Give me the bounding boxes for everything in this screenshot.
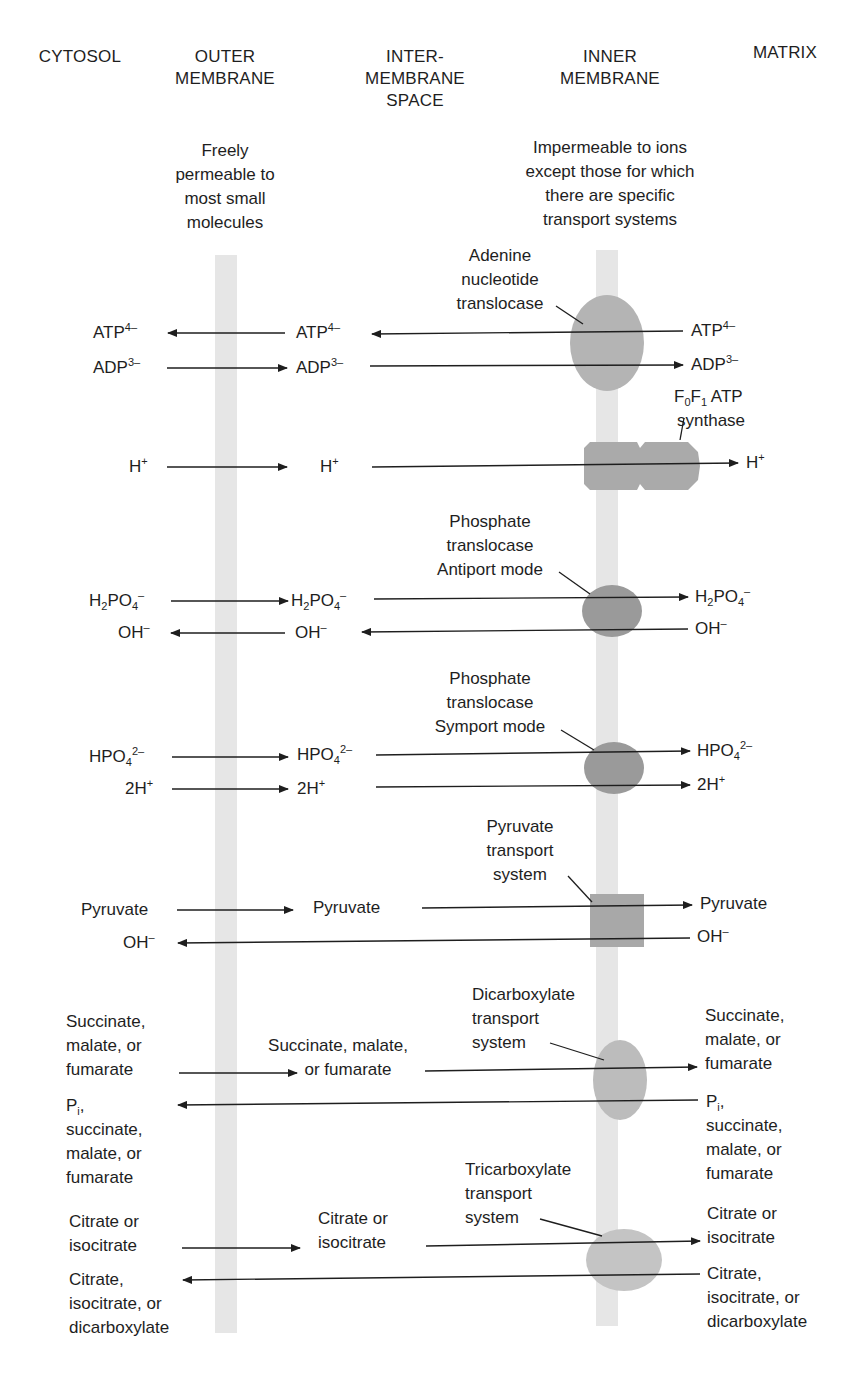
- note-outer-line2: permeable to: [140, 163, 310, 187]
- header-outer-line1: OUTER: [160, 46, 290, 68]
- note-outer-line1: Freely: [140, 139, 310, 163]
- sub-4: 4: [334, 754, 340, 766]
- h-base: H: [746, 453, 758, 472]
- succinate-matrix: Succinate, malate, or fumarate: [705, 1004, 784, 1076]
- two-h-charge: +: [147, 777, 153, 789]
- hpo4-cytosol: HPO42–: [89, 746, 144, 768]
- oh-pyr-matrix: OH–: [697, 926, 729, 948]
- succ-right-line2: malate, or: [705, 1028, 784, 1052]
- h-ims: H+: [320, 456, 339, 478]
- pyruvate-tr-line3: system: [465, 863, 575, 887]
- pi-right-line3: malate, or: [706, 1138, 783, 1162]
- hpo4-ims: HPO42–: [297, 744, 352, 766]
- pi-tail: ,: [80, 1096, 85, 1115]
- atp-base: ATP: [296, 323, 328, 342]
- citrate-ims: Citrate or isocitrate: [318, 1207, 388, 1255]
- oh-base: OH: [695, 619, 721, 638]
- oh-charge: –: [723, 925, 729, 937]
- h2po4-ims: H2PO4–: [291, 590, 346, 612]
- citrate-right-line2: isocitrate: [707, 1226, 777, 1250]
- citrate-out-matrix: Citrate, isocitrate, or dicarboxylate: [707, 1262, 807, 1334]
- pyruvate-cytosol: Pyruvate: [81, 899, 148, 921]
- header-matrix: MATRIX: [730, 42, 840, 64]
- arrow-hpo4-ims-to-matrix: [376, 751, 690, 755]
- atp-base: ATP: [93, 323, 125, 342]
- label-adenine-translocase: Adenine nucleotide translocase: [430, 244, 570, 316]
- po-part: PO: [107, 591, 132, 610]
- header-ims-line2: MEMBRANE: [345, 68, 485, 90]
- tricarb-line2: transport: [465, 1182, 605, 1206]
- atp-synthase-line1: F0F1 ATP: [674, 385, 784, 409]
- adp-ims: ADP3–: [296, 357, 343, 379]
- note-outer-line4: molecules: [140, 211, 310, 235]
- adp-charge: 3–: [726, 353, 738, 365]
- note-inner-line4: transport systems: [490, 208, 730, 232]
- succinate-cytosol: Succinate, malate, or fumarate: [66, 1010, 145, 1082]
- f-letter-2: F: [691, 387, 701, 406]
- pi-left-line3: malate, or: [66, 1142, 143, 1166]
- atp-synthase-shape: [584, 442, 700, 490]
- sub-4: 4: [132, 600, 138, 612]
- sub-4: 4: [734, 750, 740, 762]
- oh-charge: –: [149, 931, 155, 943]
- pyruvate-matrix: Pyruvate: [700, 893, 767, 915]
- two-h-ims: 2H+: [297, 778, 325, 800]
- hpo-base: HPO: [697, 741, 734, 760]
- two-h-base: 2H: [297, 779, 319, 798]
- arrow-2h-ims-to-matrix: [376, 785, 690, 787]
- atp-ims: ATP4–: [296, 322, 340, 344]
- atp-charge: 4–: [328, 321, 340, 333]
- citrate-out-left-line1: Citrate,: [69, 1268, 169, 1292]
- citrate-left-line1: Citrate or: [69, 1210, 139, 1234]
- two-h-matrix: 2H+: [697, 774, 725, 796]
- citrate-left-line2: isocitrate: [69, 1234, 139, 1258]
- symport-line1: Phosphate: [405, 667, 575, 691]
- oh-base: OH: [295, 623, 321, 642]
- charge: 2–: [132, 745, 144, 757]
- pi-left-line2: succinate,: [66, 1118, 143, 1142]
- h-matrix: H+: [746, 452, 765, 474]
- adenine-line2: nucleotide: [430, 268, 570, 292]
- pi-right-line2: succinate,: [706, 1114, 783, 1138]
- citrate-out-right-line1: Citrate,: [707, 1262, 807, 1286]
- pi-cytosol: Pi, succinate, malate, or fumarate: [66, 1094, 143, 1190]
- header-inner-line2: MEMBRANE: [545, 68, 675, 90]
- citrate-right-line1: Citrate or: [707, 1202, 777, 1226]
- note-outer-membrane: Freely permeable to most small molecules: [140, 139, 310, 235]
- atp-charge: 4–: [723, 319, 735, 331]
- sub-4: 4: [738, 596, 744, 608]
- two-h-base: 2H: [697, 775, 719, 794]
- h-base: H: [320, 457, 332, 476]
- h2po4-matrix: H2PO4–: [695, 586, 750, 608]
- citrate-matrix: Citrate or isocitrate: [707, 1202, 777, 1250]
- note-outer-line3: most small: [140, 187, 310, 211]
- sub-4: 4: [126, 756, 132, 768]
- h2po4-cytosol: H2PO4–: [89, 590, 144, 612]
- two-h-base: 2H: [125, 779, 147, 798]
- adp-base: ADP: [93, 358, 128, 377]
- label-phosphate-antiport: Phosphate translocase Antiport mode: [405, 510, 575, 582]
- sub-4: 4: [334, 600, 340, 612]
- header-inner-line1: INNER: [545, 46, 675, 68]
- atp-matrix: ATP4–: [691, 320, 735, 342]
- succ-left-line1: Succinate,: [66, 1010, 145, 1034]
- oh-base: OH: [697, 927, 723, 946]
- citrate-out-cytosol: Citrate, isocitrate, or dicarboxylate: [69, 1268, 169, 1340]
- pyruvate-tr-line2: transport: [465, 839, 575, 863]
- header-cytosol: CYTOSOL: [20, 46, 140, 68]
- citrate-mid-line1: Citrate or: [318, 1207, 388, 1231]
- h-charge: +: [332, 455, 338, 467]
- citrate-cytosol: Citrate or isocitrate: [69, 1210, 139, 1258]
- oh-charge: –: [144, 621, 150, 633]
- pi-base: P: [706, 1092, 717, 1111]
- arrow-oh-matrix-to-ims: [362, 629, 688, 632]
- charge: 2–: [740, 739, 752, 751]
- pi-base: P: [66, 1096, 77, 1115]
- header-outer-membrane: OUTER MEMBRANE: [160, 46, 290, 90]
- arrow-pyruvate-ims-to-matrix: [422, 905, 692, 908]
- succ-mid-line1: Succinate, malate,: [262, 1034, 414, 1058]
- succ-left-line3: fumarate: [66, 1058, 145, 1082]
- pi-left-line1: Pi,: [66, 1094, 143, 1118]
- adp-charge: 3–: [128, 356, 140, 368]
- h-charge: +: [141, 455, 147, 467]
